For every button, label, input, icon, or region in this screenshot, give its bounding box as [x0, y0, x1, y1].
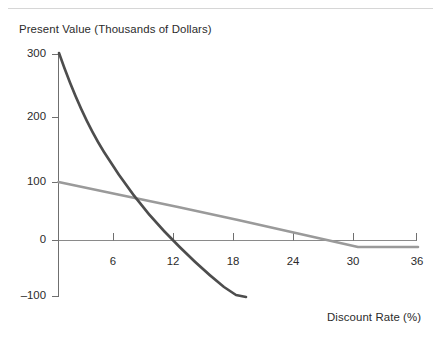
x-tick-marks — [114, 233, 417, 241]
ytick-label-minus-100: –100 — [4, 289, 46, 301]
ytick-label-0: 0 — [8, 233, 46, 245]
ytick-label-200: 200 — [8, 110, 46, 122]
x-axis-title: Discount Rate (%) — [327, 311, 421, 323]
plot-area — [0, 0, 441, 343]
ytick-label-300: 300 — [8, 47, 46, 59]
xtick-label-30: 30 — [333, 255, 373, 267]
xtick-label-6: 6 — [93, 255, 133, 267]
xtick-label-24: 24 — [273, 255, 313, 267]
xtick-label-12: 12 — [153, 255, 193, 267]
chart-page: Present Value (Thousands of Dollars) — [0, 0, 441, 343]
xtick-label-18: 18 — [213, 255, 253, 267]
xtick-label-36: 36 — [397, 255, 437, 267]
series-line-project-b — [59, 182, 419, 247]
y-tick-marks — [52, 55, 59, 297]
ytick-label-100: 100 — [8, 175, 46, 187]
